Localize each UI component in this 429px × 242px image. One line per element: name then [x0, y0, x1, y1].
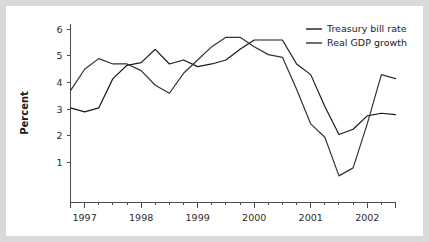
- x-tick-label: 2000: [242, 212, 266, 223]
- y-tick-group: 123456: [56, 24, 70, 168]
- x-tick-label: 2002: [355, 212, 379, 223]
- chart-figure: 123456 199719981999200020012002 Percent …: [6, 6, 423, 236]
- legend-label-1: Real GDP growth: [327, 37, 407, 48]
- x-tick-label: 1997: [73, 212, 97, 223]
- series-group: [71, 37, 396, 176]
- y-tick-label: 3: [56, 104, 62, 115]
- series-line-1: [71, 37, 396, 176]
- y-axis-title: Percent: [19, 91, 30, 135]
- line-chart: 123456 199719981999200020012002 Percent …: [6, 6, 423, 236]
- x-tick-label: 1998: [129, 212, 153, 223]
- y-axis: 123456: [56, 24, 70, 203]
- legend-label-0: Treasury bill rate: [326, 23, 407, 34]
- x-tick-label: 2001: [299, 212, 323, 223]
- y-tick-label: 4: [56, 77, 62, 88]
- y-tick-label: 6: [56, 24, 62, 35]
- y-tick-label: 5: [56, 50, 62, 61]
- series-line-0: [71, 40, 396, 135]
- y-tick-label: 2: [56, 130, 62, 141]
- x-tick-label: 1999: [186, 212, 210, 223]
- y-tick-label: 1: [56, 157, 62, 168]
- x-tick-group: 199719981999200020012002: [71, 203, 396, 223]
- chart-legend: Treasury bill rateReal GDP growth: [306, 23, 407, 48]
- x-axis: 199719981999200020012002: [71, 203, 396, 223]
